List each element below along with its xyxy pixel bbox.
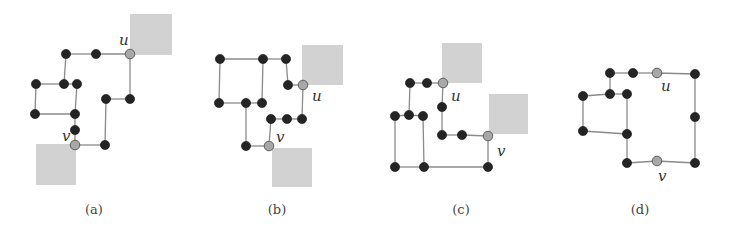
vertex-u <box>438 78 448 88</box>
panel-caption-d: (d) <box>631 202 649 217</box>
vertex <box>241 141 250 150</box>
vertex <box>100 140 109 149</box>
vertex <box>241 98 250 107</box>
vertex <box>31 79 40 88</box>
obstacle-block <box>442 43 482 83</box>
vertex <box>390 111 399 120</box>
vertex <box>457 130 466 139</box>
vertex <box>605 89 614 98</box>
vertex <box>91 49 100 58</box>
panel-d: uv(d) <box>578 68 699 217</box>
obstacle-block <box>489 94 528 134</box>
vertex <box>390 162 399 171</box>
vertex <box>622 89 631 98</box>
panel-a: uv(a) <box>30 14 172 217</box>
vertex <box>690 69 699 78</box>
vertex-v <box>70 140 80 150</box>
vertex <box>125 94 134 103</box>
vertex <box>70 125 79 134</box>
graph-edge <box>657 161 695 163</box>
vertex <box>101 94 110 103</box>
vertex <box>422 78 431 87</box>
graph-edge <box>657 73 695 74</box>
vertex-v <box>483 131 493 141</box>
obstacle-block <box>302 45 343 85</box>
graph-edge <box>262 59 263 103</box>
obstacle-block <box>272 148 312 187</box>
vertex-label-v: v <box>497 142 506 160</box>
figure-canvas: uv(a)uv(b)uv(c)uv(d) <box>0 0 735 238</box>
panel-caption-c: (c) <box>452 202 469 217</box>
vertex <box>404 110 413 119</box>
vertex <box>215 54 224 63</box>
vertex <box>257 98 266 107</box>
vertex-v <box>652 156 662 166</box>
vertex <box>282 114 291 123</box>
vertex <box>297 114 306 123</box>
vertex <box>437 130 446 139</box>
panel-caption-a: (a) <box>85 202 103 217</box>
vertex <box>437 102 446 111</box>
vertex <box>578 126 587 135</box>
vertex <box>61 49 70 58</box>
vertex <box>605 68 614 77</box>
vertex <box>72 79 81 88</box>
vertex <box>59 79 68 88</box>
panel-caption-b: (b) <box>268 202 286 217</box>
vertex-label-v: v <box>62 127 71 145</box>
graph-edge <box>423 116 424 167</box>
vertex-label-u: u <box>451 87 461 105</box>
vertex <box>483 162 492 171</box>
vertex-label-u: u <box>312 87 322 105</box>
vertex-label-v: v <box>276 128 285 146</box>
vertex <box>418 111 427 120</box>
vertex <box>30 109 39 118</box>
vertex <box>628 68 637 77</box>
vertex <box>622 129 631 138</box>
vertex-u <box>298 80 308 90</box>
panel-c: uv(c) <box>390 43 528 217</box>
vertex-u <box>125 49 135 59</box>
vertex <box>405 78 414 87</box>
vertex <box>266 114 275 123</box>
vertex <box>258 54 267 63</box>
vertex <box>419 162 428 171</box>
vertex <box>214 98 223 107</box>
vertex <box>283 80 292 89</box>
vertex <box>578 91 587 100</box>
vertex-label-u: u <box>661 77 671 95</box>
graph-edge <box>219 59 220 103</box>
vertex-label-v: v <box>658 167 667 185</box>
graph-edge <box>105 99 106 145</box>
graph-edge <box>583 131 627 134</box>
vertex <box>622 158 631 167</box>
vertex <box>281 54 290 63</box>
panel-b: uv(b) <box>214 45 343 217</box>
vertex <box>70 109 79 118</box>
obstacle-block <box>36 144 76 185</box>
obstacle-block <box>130 14 172 55</box>
vertex-label-u: u <box>119 31 129 49</box>
vertex <box>690 112 699 121</box>
vertex-v <box>264 141 274 151</box>
vertex <box>690 158 699 167</box>
